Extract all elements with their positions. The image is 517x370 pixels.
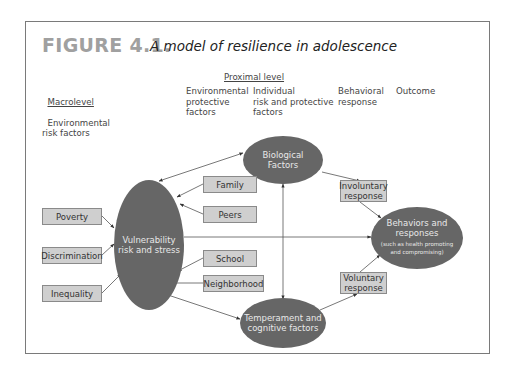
label-vulnerability: Vulnerability risk and stress xyxy=(114,225,184,265)
arrow-inequality xyxy=(102,274,121,293)
node-discrimination: Discrimination xyxy=(42,247,102,264)
arrow-peers xyxy=(180,204,203,214)
node-neighborhood: Neighborhood xyxy=(203,275,264,292)
node-family: Family xyxy=(203,176,257,193)
arrow-discrimination xyxy=(102,244,114,255)
node-poverty: Poverty xyxy=(42,208,102,225)
arrow-poverty xyxy=(102,216,114,228)
label-biological: Biological Factors xyxy=(243,146,323,174)
node-peers: Peers xyxy=(203,206,257,223)
label-outcome-sub: (such as health promoting and compromisi… xyxy=(371,239,463,257)
arrow-vuln-temperament xyxy=(159,292,240,319)
node-school: School xyxy=(203,250,257,267)
label-temperament: Temperament and cognitive factors xyxy=(240,309,326,337)
node-involuntary-response: Involuntary response xyxy=(340,180,387,202)
arrow-voluntary-outcome xyxy=(360,255,380,272)
arrow-involuntary-outcome xyxy=(360,202,381,218)
label-outcome-main: Behaviors and responses xyxy=(371,217,463,239)
node-inequality: Inequality xyxy=(42,285,102,302)
arrow-temperament-voluntary xyxy=(320,294,357,310)
node-voluntary-response: Voluntary response xyxy=(340,272,387,294)
arrow-family xyxy=(177,184,203,197)
